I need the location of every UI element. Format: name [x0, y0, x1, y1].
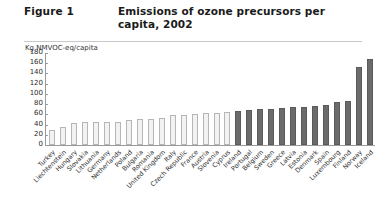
bar-slot — [222, 53, 233, 145]
bar-slot — [299, 53, 310, 145]
bar-slot — [58, 53, 69, 145]
bar-france — [192, 114, 198, 145]
bar-slot — [277, 53, 288, 145]
figure-number: Figure 1 — [24, 5, 74, 17]
bar-slot — [178, 53, 189, 145]
bar-slot — [331, 53, 342, 145]
bar-spain — [323, 105, 329, 145]
bar-slovakia — [82, 122, 88, 145]
x-axis-label-slot: Iceland — [370, 147, 385, 199]
bar-ireland — [235, 111, 241, 145]
y-axis-tick-label: 180 — [30, 48, 43, 56]
bar-slot — [80, 53, 91, 145]
y-axis-tick-label: 140 — [30, 68, 43, 76]
bar-series — [47, 53, 375, 145]
x-axis-line — [45, 145, 375, 146]
y-axis-line — [45, 53, 46, 145]
y-axis-tick-label: 40 — [34, 120, 43, 128]
bar-slot — [353, 53, 364, 145]
bar-slot — [189, 53, 200, 145]
bar-romania — [148, 119, 154, 145]
bar-iceland — [367, 59, 373, 145]
bar-poland — [126, 120, 132, 145]
bar-denmark — [312, 106, 318, 145]
bar-slot — [255, 53, 266, 145]
bar-netherlands — [115, 122, 121, 146]
bar-slot — [156, 53, 167, 145]
bar-slot — [342, 53, 353, 145]
bar-czech-republic — [181, 115, 187, 145]
bar-slot — [124, 53, 135, 145]
bar-slot — [200, 53, 211, 145]
bar-slot — [320, 53, 331, 145]
bar-germany — [104, 122, 110, 145]
bar-portugal — [246, 110, 252, 145]
y-axis-tick-label: 160 — [30, 58, 43, 66]
bar-estonia — [301, 107, 307, 145]
bar-finland — [345, 101, 351, 145]
bar-greece — [279, 108, 285, 145]
chart-plot-area: 020406080100120140160180 — [24, 53, 376, 146]
bar-slot — [244, 53, 255, 145]
bar-slot — [167, 53, 178, 145]
y-axis-tick-mark — [45, 145, 48, 146]
bar-slot — [145, 53, 156, 145]
bar-italy — [170, 115, 176, 145]
y-axis-tick-label: 20 — [34, 130, 43, 138]
bar-slot — [233, 53, 244, 145]
y-axis-tick: 0 — [24, 145, 51, 146]
bar-slot — [211, 53, 222, 145]
bar-liechtenstein — [60, 127, 66, 145]
bar-latvia — [290, 107, 296, 145]
x-axis-labels: TurkeyLiechtensteinHungarySlovakiaLithua… — [24, 147, 376, 199]
bar-hungary — [71, 123, 77, 145]
bar-slovenia — [214, 113, 220, 145]
bar-cyprus — [224, 112, 230, 145]
bar-bulgaria — [137, 119, 143, 145]
bar-slot — [91, 53, 102, 145]
figure-title: Emissions of ozone precursors per capita… — [118, 5, 368, 31]
bar-slot — [102, 53, 113, 145]
header-divider — [24, 41, 362, 42]
bar-united-kingdom — [159, 118, 165, 145]
bar-luxembourg — [334, 102, 340, 145]
y-axis-tick-label: 60 — [34, 109, 43, 117]
bar-slot — [310, 53, 321, 145]
bar-slot — [47, 53, 58, 145]
bar-slot — [266, 53, 277, 145]
bar-turkey — [49, 130, 55, 145]
bar-norway — [356, 67, 362, 145]
bar-slot — [135, 53, 146, 145]
bar-lithuania — [93, 122, 99, 145]
bar-slot — [288, 53, 299, 145]
y-axis-tick-label: 120 — [30, 79, 43, 87]
bar-austria — [203, 113, 209, 145]
y-axis-tick-label: 100 — [30, 89, 43, 97]
bar-sweden — [268, 109, 274, 145]
bar-slot — [69, 53, 80, 145]
bar-belgium — [257, 109, 263, 145]
bar-slot — [113, 53, 124, 145]
y-axis-tick-label: 80 — [34, 99, 43, 107]
figure-header: Figure 1 Emissions of ozone precursors p… — [0, 0, 385, 40]
bar-slot — [364, 53, 375, 145]
